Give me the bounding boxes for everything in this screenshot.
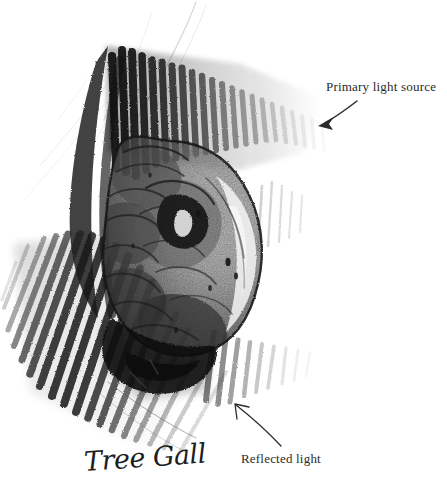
pencil-drawing (0, 0, 447, 500)
annotation-label-primary-light-source: Primary light source (326, 79, 436, 95)
arrow-primary-light-source (318, 101, 357, 130)
drawing-canvas: Primary light source Reflected light Tre… (0, 0, 447, 500)
arrow-reflected-light (235, 404, 281, 446)
annotation-label-reflected-light: Reflected light (241, 451, 321, 467)
hatching-right-faint (258, 182, 302, 250)
